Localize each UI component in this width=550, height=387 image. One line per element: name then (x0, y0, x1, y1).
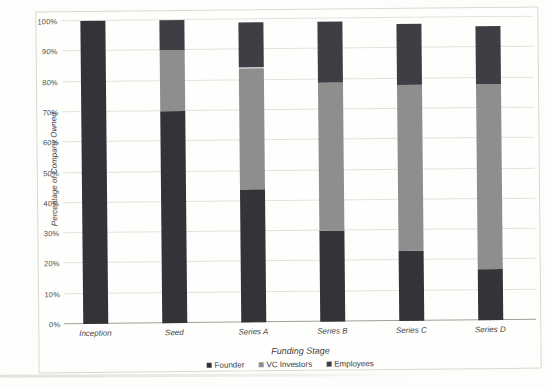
x-tick-label: Inception (56, 328, 134, 338)
legend: Founder VC Investors Employees (40, 358, 541, 372)
gridline (64, 258, 536, 264)
gridline (62, 107, 534, 113)
legend-item-vc-investors: VC Investors (258, 360, 312, 370)
x-tick-label: Series C (372, 325, 450, 335)
bar-segment-employees (396, 24, 422, 85)
x-tick-label: Series B (293, 326, 371, 336)
legend-label-employees: Employees (334, 359, 374, 368)
founder-swatch-icon (207, 363, 212, 368)
bar-segment-vc-investors (396, 84, 423, 251)
y-tick-label: 20% (30, 260, 60, 269)
y-tick-label: 50% (29, 169, 59, 178)
gridline (64, 288, 536, 294)
scan-artifact (0, 373, 420, 377)
legend-label-founder: Founder (215, 360, 245, 369)
y-tick-label: 60% (28, 138, 58, 147)
gridline (62, 76, 534, 82)
scanned-chart-page: Percentage of Company Owned 0%10%20%30%4… (0, 0, 550, 387)
chart-frame: Percentage of Company Owned 0%10%20%30%4… (35, 7, 541, 374)
x-tick-label: Series A (214, 327, 292, 337)
gridline (63, 167, 535, 173)
bar-segment-founder (160, 111, 187, 323)
gridline (61, 16, 533, 22)
bar-series-a (238, 19, 266, 322)
bar-series-b (317, 18, 345, 321)
bar-segment-founder (239, 189, 265, 323)
y-tick-label: 70% (28, 108, 58, 117)
bar-segment-vc-investors (317, 82, 343, 231)
bar-segment-vc-investors (159, 50, 185, 111)
employees-swatch-icon (326, 362, 331, 367)
bar-segment-founder (319, 231, 345, 322)
vc-investors-swatch-icon (258, 362, 263, 367)
bar-series-c (396, 18, 424, 321)
legend-item-employees: Employees (326, 359, 374, 368)
bar-segment-vc-investors (475, 84, 502, 269)
x-tick-label: Series D (451, 325, 529, 335)
bar-segment-founder (398, 251, 424, 321)
legend-label-vc-investors: VC Investors (266, 360, 312, 369)
gridline (62, 46, 534, 52)
x-axis-line (64, 319, 536, 325)
bar-segment-employees (317, 22, 343, 83)
y-tick-label: 0% (30, 320, 60, 329)
gridline (63, 197, 535, 203)
bar-segment-founder (80, 21, 108, 324)
bar-segment-employees (238, 22, 263, 68)
legend-item-founder: Founder (207, 360, 245, 369)
x-tick-label: Seed (135, 328, 213, 338)
gridline (63, 137, 535, 143)
y-tick-label: 30% (29, 229, 59, 238)
y-tick-label: 10% (30, 290, 60, 299)
gridline (63, 228, 535, 234)
y-tick-label: 90% (28, 48, 58, 57)
bar-segment-vc-investors (238, 68, 264, 189)
bar-series-d (475, 17, 503, 320)
bar-segment-employees (159, 20, 184, 51)
bar-seed (159, 20, 187, 323)
y-tick-label: 100% (27, 17, 57, 26)
x-axis-title: Funding Stage (65, 344, 537, 359)
bar-inception (80, 21, 108, 324)
y-tick-label: 40% (29, 199, 59, 208)
bar-segment-employees (475, 26, 501, 84)
plot-area: 0%10%20%30%40%50%60%70%80%90%100%Incepti… (61, 17, 536, 325)
bar-segment-founder (477, 268, 502, 320)
y-tick-label: 80% (28, 78, 58, 87)
